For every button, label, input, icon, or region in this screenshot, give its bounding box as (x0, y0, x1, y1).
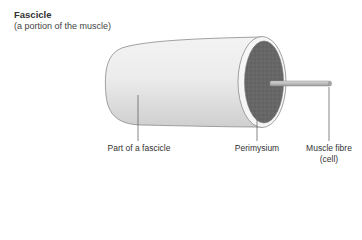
label-part-of-fascicle: Part of a fascicle (98, 143, 180, 154)
label-perimysium: Perimysium (228, 143, 286, 154)
label-muscle-fibre: Muscle fibre (cell) (298, 143, 360, 165)
muscle-fibre-rod (270, 81, 330, 86)
label-muscle-fibre-line2: (cell) (298, 154, 360, 165)
label-muscle-fibre-line1: Muscle fibre (298, 143, 360, 154)
